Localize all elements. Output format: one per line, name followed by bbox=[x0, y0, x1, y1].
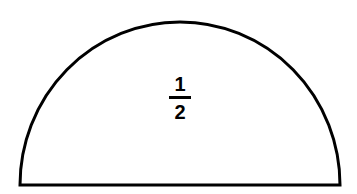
figure-canvas: 1 2 bbox=[0, 0, 357, 194]
fraction-denominator: 2 bbox=[155, 99, 205, 122]
fraction-numerator: 1 bbox=[155, 74, 205, 96]
fraction-label: 1 2 bbox=[155, 74, 205, 122]
